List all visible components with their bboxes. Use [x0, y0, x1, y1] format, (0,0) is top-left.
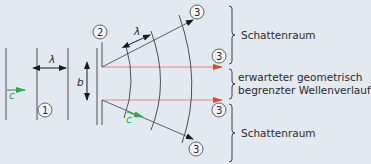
diffracted-ray-top [102, 20, 193, 67]
barrier [97, 42, 102, 125]
velocity-label-left: c [9, 89, 15, 102]
plane-wavefronts [6, 48, 68, 120]
marker-3-top: 3 [194, 6, 200, 19]
markers [38, 5, 226, 156]
slit-width-label: b [77, 76, 84, 89]
marker-1: 1 [42, 104, 48, 117]
diffracted-ray-bottom [102, 100, 193, 139]
marker-2: 2 [97, 26, 103, 39]
wavelength-label-right: λ [134, 25, 140, 38]
braces [229, 6, 235, 162]
marker-3-bottom: 3 [193, 143, 199, 156]
wavelength-label-left: λ [49, 53, 55, 66]
geometric-region-label-line1: erwarteter geometrisch [238, 71, 362, 84]
marker-3-lower: 3 [216, 104, 222, 117]
shadow-region-bottom-label: Schattenraum [241, 127, 316, 140]
velocity-label-right: c [126, 113, 132, 126]
geometric-region-label-line2: begrenzter Wellenverlauf [238, 84, 371, 97]
marker-3-upper: 3 [216, 50, 222, 63]
shadow-region-top-label: Schattenraum [241, 29, 316, 42]
